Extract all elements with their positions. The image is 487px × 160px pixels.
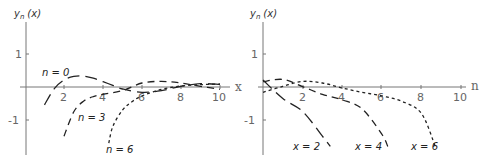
- label-n0: n = 0: [42, 67, 69, 78]
- left-y-axis-label: yn(x): [13, 8, 41, 21]
- right-chart: n yn(x) 1 -1 2 4 6 8 10 x = 2 x = 4 x = …: [244, 8, 479, 155]
- left-xtick-10: 10: [212, 91, 226, 104]
- label-n6: n = 6: [106, 144, 133, 155]
- right-xtick-4: 4: [338, 91, 345, 104]
- label-x4: x = 4: [354, 141, 382, 152]
- left-ytick-neg1: -1: [8, 114, 19, 127]
- right-xtick-6: 6: [377, 91, 384, 104]
- bessel-charts: x yn(x) 1 -1 2 4 6 8 10 n = 0 n = 3 n = …: [0, 0, 487, 160]
- label-n3: n = 3: [78, 112, 105, 123]
- right-y-axis-label: yn(x): [249, 8, 277, 21]
- right-ytick-1: 1: [251, 48, 258, 61]
- right-ytick-neg1: -1: [244, 114, 255, 127]
- left-xtick-2: 2: [60, 91, 67, 104]
- left-xtick-4: 4: [99, 91, 106, 104]
- right-curves: [263, 79, 435, 146]
- right-x-axis-label: n: [471, 79, 479, 93]
- curve-x6: [263, 81, 435, 146]
- left-ytick-1: 1: [15, 48, 22, 61]
- curve-n0: [45, 76, 221, 105]
- left-x-axis-label: x: [235, 80, 242, 94]
- left-xtick-8: 8: [177, 91, 184, 104]
- right-xtick-10: 10: [453, 91, 467, 104]
- curve-x2: [263, 80, 330, 146]
- right-xtick-8: 8: [417, 91, 424, 104]
- left-chart: x yn(x) 1 -1 2 4 6 8 10 n = 0 n = 3 n = …: [8, 8, 242, 155]
- curve-n3: [64, 81, 220, 136]
- curve-x4: [263, 79, 388, 146]
- label-x6: x = 6: [410, 141, 438, 152]
- left-curves: [45, 76, 221, 143]
- right-xtick-2: 2: [299, 91, 306, 104]
- label-x2: x = 2: [292, 141, 320, 152]
- curve-n6: [109, 84, 220, 143]
